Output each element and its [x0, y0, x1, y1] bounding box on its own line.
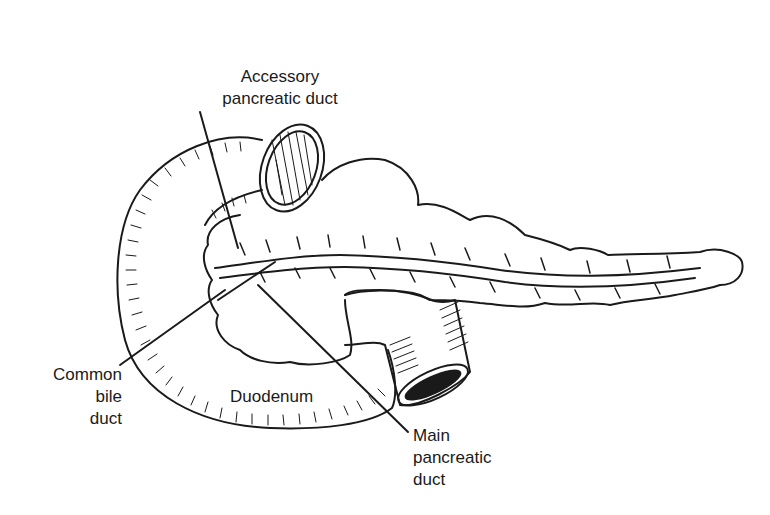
vessel-hatching [390, 302, 468, 373]
pancreas-diagram: Accessory pancreatic duct Common bile du… [0, 0, 770, 515]
duodenum-hatching [126, 142, 385, 425]
leader-common-bile-duct [120, 290, 225, 365]
duodenum-inner-edge [205, 190, 262, 225]
label-duodenum: Duodenum [230, 386, 313, 408]
pancreas-illustration [0, 0, 770, 515]
leader-accessory-duct [200, 112, 238, 248]
label-common-bile-duct: Common bile duct [20, 364, 122, 430]
main-pancreatic-duct [215, 255, 700, 276]
duct-branches [240, 235, 670, 300]
duodenum-cut-end-top [248, 115, 335, 220]
leader-main-duct [258, 285, 408, 432]
label-accessory-pancreatic-duct: Accessory pancreatic duct [180, 66, 380, 110]
main-pancreatic-duct-lower [220, 267, 695, 287]
label-main-pancreatic-duct: Main pancreatic duct [413, 425, 491, 491]
pancreas-head [204, 215, 351, 364]
duodenum-outline [117, 137, 395, 428]
